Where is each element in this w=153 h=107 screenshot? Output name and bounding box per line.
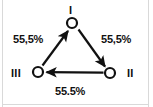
edge-label-three-to-one: 55,5% [13, 34, 43, 45]
node-3-circle [33, 67, 43, 77]
node-2-circle [105, 68, 115, 78]
node-label-two: II [127, 68, 134, 79]
node-label-three: III [11, 68, 21, 79]
edge-label-one-to-two: 55,5% [101, 34, 131, 45]
edge-3-to-1 [43, 31, 69, 66]
cycle-diagram-figure: I II III 55,5% 55,5% 55.5% [0, 0, 153, 107]
node-1-circle [67, 18, 77, 28]
edge-label-two-to-three: 55.5% [55, 86, 85, 97]
node-label-one: I [69, 5, 72, 16]
